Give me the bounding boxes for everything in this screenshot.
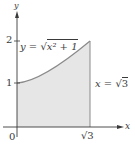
sqrt-icon: √	[115, 78, 121, 89]
boundary-label-radicand: 3	[122, 77, 128, 89]
curve-equation-lhs: y =	[20, 41, 40, 52]
x-axis-label: x	[125, 122, 130, 131]
y-axis-arrow-icon	[15, 11, 19, 18]
curve-equation-label: y = √x² + 1	[20, 42, 78, 52]
origin-label: 0	[9, 132, 15, 142]
boundary-label-lhs: x =	[95, 78, 115, 89]
x-axis-arrow-icon	[117, 125, 124, 129]
x-tick-label-sqrt3: √3	[81, 131, 94, 141]
y-axis-label: y	[14, 2, 19, 10]
y-tick-label-2: 2	[6, 35, 12, 45]
y-tick-label-1: 1	[6, 78, 12, 88]
x-tick-text: √3	[81, 130, 94, 141]
region-diagram	[0, 0, 135, 146]
sqrt-icon: √	[40, 41, 46, 52]
boundary-label: x = √3	[95, 79, 128, 89]
shaded-region	[17, 41, 90, 127]
curve-equation-radicand: x² + 1	[47, 39, 78, 52]
